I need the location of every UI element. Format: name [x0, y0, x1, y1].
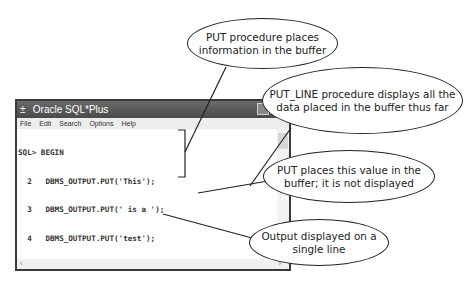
- callout-put-line-procedure: PUT_LINE procedure displays all the data…: [262, 67, 463, 134]
- callout-put-value: PUT places this value in the buffer; it …: [263, 150, 435, 203]
- callout-output-single-line: Output displayed on a single line: [249, 219, 389, 266]
- callout-put-procedure: PUT procedure places information in the …: [187, 18, 338, 69]
